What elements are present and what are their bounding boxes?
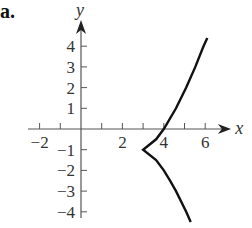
y-tick-label: −2 bbox=[57, 161, 75, 180]
chart: −22464321−1−2−3−4yx bbox=[0, 0, 252, 228]
y-tick-label: 1 bbox=[67, 99, 76, 118]
x-tick-label: −2 bbox=[31, 133, 49, 152]
x-axis-label: x bbox=[234, 118, 243, 138]
curve-line bbox=[143, 38, 207, 222]
x-tick-label: 4 bbox=[160, 133, 169, 152]
x-tick-label: 6 bbox=[201, 133, 210, 152]
y-tick-label: −1 bbox=[57, 141, 75, 160]
y-tick-label: 2 bbox=[67, 79, 76, 98]
tick-labels: −22464321−1−2−3−4yx bbox=[31, 0, 244, 222]
y-tick-label: −3 bbox=[57, 182, 75, 201]
y-tick-label: −4 bbox=[57, 203, 76, 222]
x-tick-label: 2 bbox=[118, 133, 127, 152]
y-tick-label: 4 bbox=[67, 37, 76, 56]
y-axis-label: y bbox=[74, 0, 84, 20]
y-tick-label: 3 bbox=[67, 58, 76, 77]
